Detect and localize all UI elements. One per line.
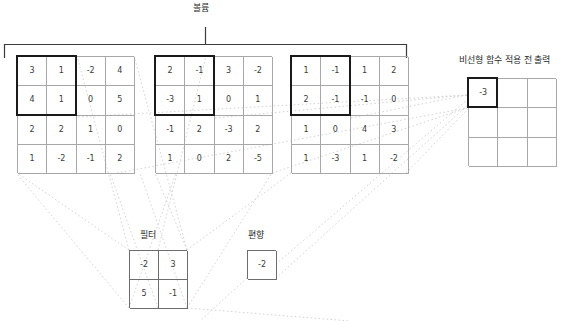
volume-cell: 1 <box>351 57 380 86</box>
volume-slice-0: 3 1 -2 4 4 1 0 5 2 2 1 0 1 -2 -1 2 <box>17 56 134 173</box>
filter-grid: -2 3 5 -1 <box>129 250 187 308</box>
output-cell <box>498 79 527 108</box>
volume-cell: 2 <box>106 145 135 174</box>
volume-cell: -2 <box>380 145 409 174</box>
volume-cell: 2 <box>156 57 185 86</box>
volume-cell: -3 <box>215 116 244 145</box>
filter-cell: 3 <box>159 251 188 280</box>
filter-cell: -1 <box>159 280 188 309</box>
bias-cell: -2 <box>248 251 277 280</box>
volume-cell: -5 <box>244 145 273 174</box>
volume-cell: -1 <box>185 57 214 86</box>
volume-cell: 2 <box>292 86 321 115</box>
volume-cell: 2 <box>185 116 214 145</box>
output-cell <box>528 79 557 108</box>
output-cell <box>498 108 527 137</box>
volume-cell: 0 <box>77 86 106 115</box>
volume-cell: 1 <box>292 57 321 86</box>
convolution-diagram: 볼륨 3 1 -2 4 4 1 0 5 2 2 1 0 1 -2 -1 2 2 … <box>0 0 571 321</box>
volume-cell: 5 <box>106 86 135 115</box>
volume-cell: 2 <box>380 57 409 86</box>
output-cell: -3 <box>469 79 498 108</box>
volume-cell: 2 <box>215 145 244 174</box>
volume-cell: -2 <box>47 145 76 174</box>
volume-cell: 1 <box>244 86 273 115</box>
output-grid: -3 <box>468 78 556 166</box>
filter-cell: -2 <box>130 251 159 280</box>
filter-label: 필터 <box>140 230 156 241</box>
bias-grid: -2 <box>247 250 276 279</box>
volume-label: 볼륨 <box>193 3 209 14</box>
output-cell <box>498 138 527 167</box>
volume-cell: 3 <box>380 116 409 145</box>
volume-cell: -1 <box>77 145 106 174</box>
volume-cell: 3 <box>18 57 47 86</box>
volume-cell: -1 <box>156 116 185 145</box>
volume-cell: 0 <box>321 116 350 145</box>
volume-cell: 4 <box>106 57 135 86</box>
volume-cell: 1 <box>18 145 47 174</box>
volume-slice-1: 2 -1 3 -2 -3 1 0 1 -1 2 -3 2 1 0 2 -5 <box>155 56 272 173</box>
volume-cell: 1 <box>156 145 185 174</box>
filter-cell: 5 <box>130 280 159 309</box>
volume-cell: 1 <box>47 57 76 86</box>
volume-cell: -3 <box>156 86 185 115</box>
volume-cell: 4 <box>18 86 47 115</box>
output-label: 비선형 함수 적용 전 출력 <box>459 55 550 66</box>
volume-cell: 0 <box>380 86 409 115</box>
volume-cell: 1 <box>47 86 76 115</box>
volume-cell: -1 <box>321 86 350 115</box>
volume-cell: -1 <box>351 86 380 115</box>
volume-cell: 0 <box>215 86 244 115</box>
volume-cell: 4 <box>351 116 380 145</box>
volume-cell: -2 <box>77 57 106 86</box>
volume-cell: 3 <box>215 57 244 86</box>
volume-cell: -1 <box>321 57 350 86</box>
volume-cell: 1 <box>77 116 106 145</box>
volume-cell: 1 <box>292 116 321 145</box>
output-cell <box>469 138 498 167</box>
volume-cell: 0 <box>106 116 135 145</box>
volume-cell: 1 <box>292 145 321 174</box>
volume-cell: 0 <box>185 145 214 174</box>
volume-cell: -2 <box>244 57 273 86</box>
bias-label: 편향 <box>248 230 264 241</box>
output-cell <box>469 108 498 137</box>
volume-cell: 2 <box>244 116 273 145</box>
volume-cell: -3 <box>321 145 350 174</box>
volume-bracket <box>5 27 407 58</box>
output-cell <box>528 138 557 167</box>
volume-slice-2: 1 -1 1 2 2 -1 -1 0 1 0 4 3 1 -3 1 -2 <box>291 56 408 173</box>
volume-cell: 2 <box>47 116 76 145</box>
volume-cell: 1 <box>185 86 214 115</box>
output-cell <box>528 108 557 137</box>
volume-cell: 1 <box>351 145 380 174</box>
volume-cell: 2 <box>18 116 47 145</box>
